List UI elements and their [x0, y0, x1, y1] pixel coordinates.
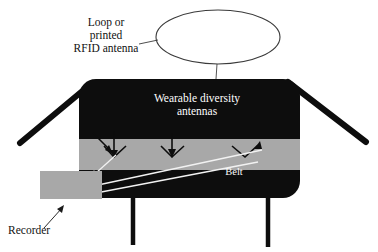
- label-belt: Belt: [212, 166, 256, 178]
- loop-antenna-lead-line: [216, 64, 217, 79]
- label-rfid-antenna: Loop or printed RFID antenna: [58, 16, 154, 55]
- loop-antenna-ellipse: [156, 10, 280, 64]
- legs-group: [133, 196, 268, 247]
- diagram-svg: [0, 0, 378, 252]
- loop-antenna-group: [156, 10, 280, 79]
- diagram-canvas: Loop or printed RFID antenna Wearable di…: [0, 0, 378, 252]
- recorder-box: [40, 171, 102, 199]
- label-wearable-antennas: Wearable diversity antennas: [122, 92, 272, 118]
- label-recorder: Recorder: [8, 224, 86, 237]
